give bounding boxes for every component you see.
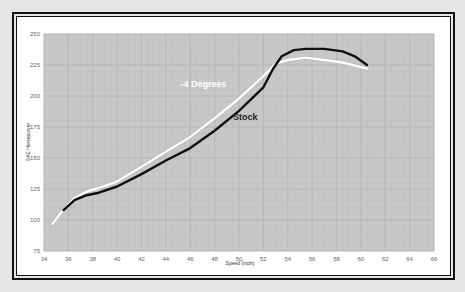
y-axis-ticks: 75100125150175200225250 [30,31,41,254]
horsepower-chart: 75100125150175200225250 3436384042444648… [0,0,465,292]
y-tick-label: 250 [30,31,41,37]
y-tick-label: 125 [30,186,41,192]
x-tick-label: 54 [284,256,291,262]
x-tick-label: 42 [138,256,145,262]
x-tick-label: 56 [309,256,316,262]
x-tick-label: 64 [406,256,413,262]
x-tick-label: 34 [41,256,48,262]
x-tick-label: 40 [114,256,121,262]
y-axis-title: SAE Horsepower [25,122,31,161]
series-label: -4 Degrees [181,79,227,89]
y-tick-label: 150 [30,155,41,161]
x-tick-label: 38 [89,256,96,262]
y-tick-label: 200 [30,93,41,99]
x-tick-label: 44 [163,256,170,262]
y-tick-label: 175 [30,124,41,130]
x-tick-label: 60 [358,256,365,262]
x-tick-label: 46 [187,256,194,262]
x-axis-title: Speed (mph) [226,260,255,266]
x-tick-label: 52 [260,256,267,262]
y-tick-label: 225 [30,62,41,68]
y-tick-label: 75 [33,248,40,254]
y-tick-label: 100 [30,217,41,223]
x-tick-label: 58 [333,256,340,262]
x-tick-label: 66 [431,256,438,262]
series-label: Stock [233,112,259,122]
x-tick-label: 48 [211,256,218,262]
x-tick-label: 62 [382,256,389,262]
x-tick-label: 36 [65,256,72,262]
